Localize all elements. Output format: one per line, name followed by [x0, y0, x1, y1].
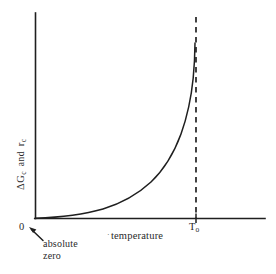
absolute-zero-line1: absolute	[43, 238, 78, 249]
origin-zero-label: 0	[19, 222, 24, 233]
absolute-zero-line2: zero	[43, 251, 78, 261]
y-axis-label-r-subscript: c	[19, 139, 28, 143]
x-axis-label-text: temperature	[111, 230, 163, 241]
t0-tick-label: To	[189, 222, 199, 234]
y-axis-label-r: r	[15, 142, 26, 146]
y-axis-label-conjunction: and	[16, 146, 26, 171]
y-axis-label: ΔGcandrc	[16, 20, 30, 190]
figure-container: ΔGcandrc ·temperature To 0 absolutezero	[0, 0, 276, 274]
x-axis-label: ·temperature	[107, 231, 163, 242]
y-axis-label-deltag: ΔG	[15, 175, 26, 190]
absolute-zero-annotation: absolutezero	[43, 239, 78, 261]
y-axis-label-deltag-subscript: c	[19, 171, 28, 175]
t0-subscript: o	[195, 225, 199, 234]
